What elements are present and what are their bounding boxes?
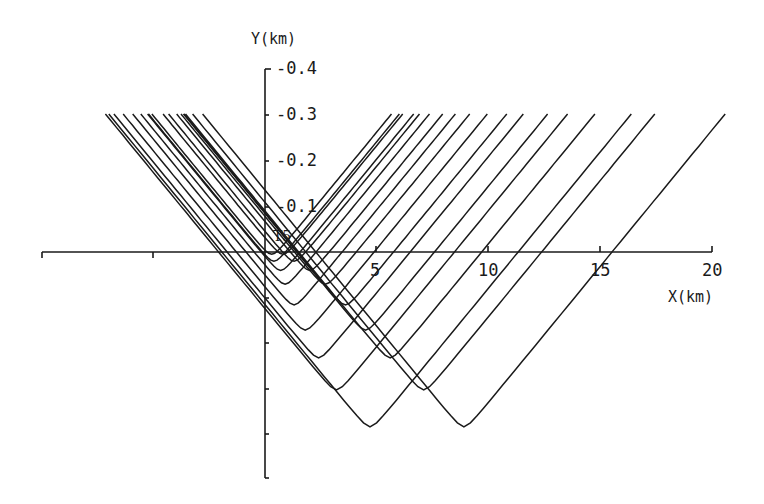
y-tick-label: -0.3 <box>276 106 317 123</box>
traveltime-plot <box>0 0 764 504</box>
traveltime-curve <box>184 114 507 305</box>
x-tick-label: 20 <box>702 262 722 279</box>
x-tick-label: 15 <box>590 262 610 279</box>
x-axis-title: X(km) <box>668 289 713 306</box>
y-tick-label: -0.4 <box>276 60 317 77</box>
annotation-t5: T5 <box>273 228 291 245</box>
y-tick-label: -0.2 <box>276 152 317 169</box>
y-tick-label: -0.1 <box>276 198 317 215</box>
curve-family <box>105 114 725 427</box>
y-axis-title: Y(km) <box>251 31 296 48</box>
x-tick-label: 5 <box>370 262 380 279</box>
x-tick-label: 10 <box>478 262 498 279</box>
